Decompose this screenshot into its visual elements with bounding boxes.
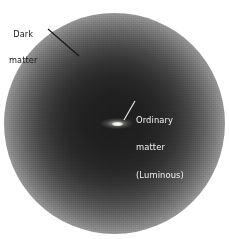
ordinary-matter-label: Ordinary matter (Luminous) (136, 98, 184, 198)
galaxy-core (112, 122, 123, 126)
luminous-galaxy-disk (101, 118, 133, 129)
dark-matter-label-line-1: Dark (9, 30, 37, 39)
dark-matter-label: Dark matter (9, 12, 37, 83)
ordinary-matter-label-line-3: (Luminous) (136, 171, 184, 180)
ordinary-matter-label-line-1: Ordinary (136, 116, 184, 125)
dark-matter-halo-figure: Dark matter Ordinary matter (Luminous) (0, 0, 229, 239)
dark-matter-label-line-2: matter (9, 56, 37, 65)
ordinary-matter-label-line-2: matter (136, 143, 184, 152)
